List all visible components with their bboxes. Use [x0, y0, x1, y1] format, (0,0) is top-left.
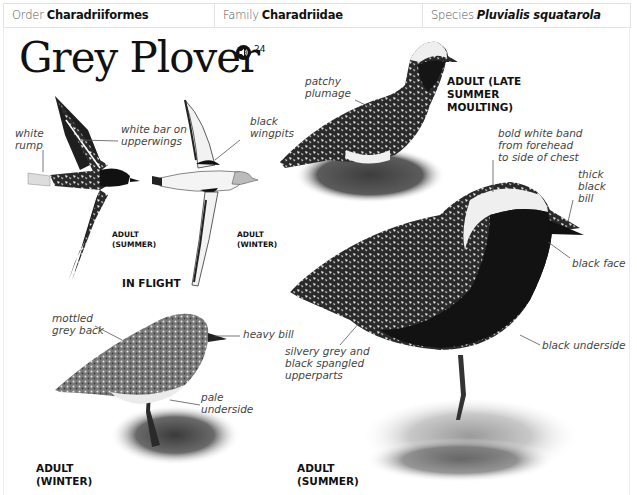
annotation-white-bar: white bar on upperwings [121, 123, 187, 147]
annotation-line: rump [15, 139, 44, 151]
annotation-mottled-back: mottled grey back [52, 312, 104, 336]
annotation-line: black spangled [285, 357, 370, 369]
caption-line: ADULT [112, 230, 156, 240]
annotation-line: silvery grey and [285, 345, 370, 357]
annotation-line: pale [201, 391, 253, 403]
annotation-line: grey back [52, 324, 104, 336]
annotation-line: white bar on [121, 123, 187, 135]
heading-in-flight: IN FLIGHT [122, 277, 181, 290]
annotation-line: upperwings [121, 135, 187, 147]
annotation-line: upperparts [285, 369, 370, 381]
caption-line: ADULT (LATE [447, 75, 521, 88]
annotation-line: wingpits [250, 127, 294, 139]
caption-line: (WINTER) [237, 240, 277, 250]
annotation-line: underside [201, 403, 253, 415]
annotation-line: mottled [52, 312, 104, 324]
caption-flight-summer: ADULT (SUMMER) [112, 230, 156, 250]
annotation-line: plumage [305, 87, 351, 99]
annotation-heavy-bill: heavy bill [243, 328, 294, 340]
caption-winter: ADULT (WINTER) [36, 462, 92, 488]
annotation-line: from forehead [498, 139, 583, 151]
annotation-line: to side of chest [498, 151, 583, 163]
annotation-black-face: black face [572, 257, 626, 269]
caption-moulting: ADULT (LATE SUMMER MOULTING) [447, 75, 521, 114]
annotation-line: thick [578, 168, 606, 180]
caption-line: SUMMER [447, 88, 521, 101]
annotation-white-band: bold white band from forehead to side of… [498, 127, 583, 163]
caption-line: ADULT [36, 462, 92, 475]
annotation-black-wingpits: black wingpits [250, 115, 294, 139]
caption-line: ADULT [237, 230, 277, 240]
caption-line: MOULTING) [447, 101, 521, 114]
annotation-thick-bill: thick black bill [578, 168, 606, 204]
annotation-line: patchy [305, 75, 351, 87]
caption-flight-winter: ADULT (WINTER) [237, 230, 277, 250]
annotation-line: black [250, 115, 294, 127]
annotation-black-underside: black underside [542, 339, 625, 351]
annotation-pale-underside: pale underside [201, 391, 253, 415]
annotation-line: bold white band [498, 127, 583, 139]
annotation-white-rump: white rump [15, 127, 44, 151]
annotation-spangled-upperparts: silvery grey and black spangled upperpar… [285, 345, 370, 381]
annotation-patchy-plumage: patchy plumage [305, 75, 351, 99]
annotation-line: white [15, 127, 44, 139]
moulting-bird [280, 42, 458, 203]
caption-line: (SUMMER) [112, 240, 156, 250]
caption-summer: ADULT (SUMMER) [297, 462, 359, 488]
annotation-line: black [578, 180, 606, 192]
caption-line: ADULT [297, 462, 359, 475]
caption-line: (WINTER) [36, 475, 92, 488]
caption-line: (SUMMER) [297, 475, 359, 488]
winter-bird [55, 314, 240, 465]
summer-bird [290, 182, 584, 482]
annotation-line: bill [578, 192, 606, 204]
